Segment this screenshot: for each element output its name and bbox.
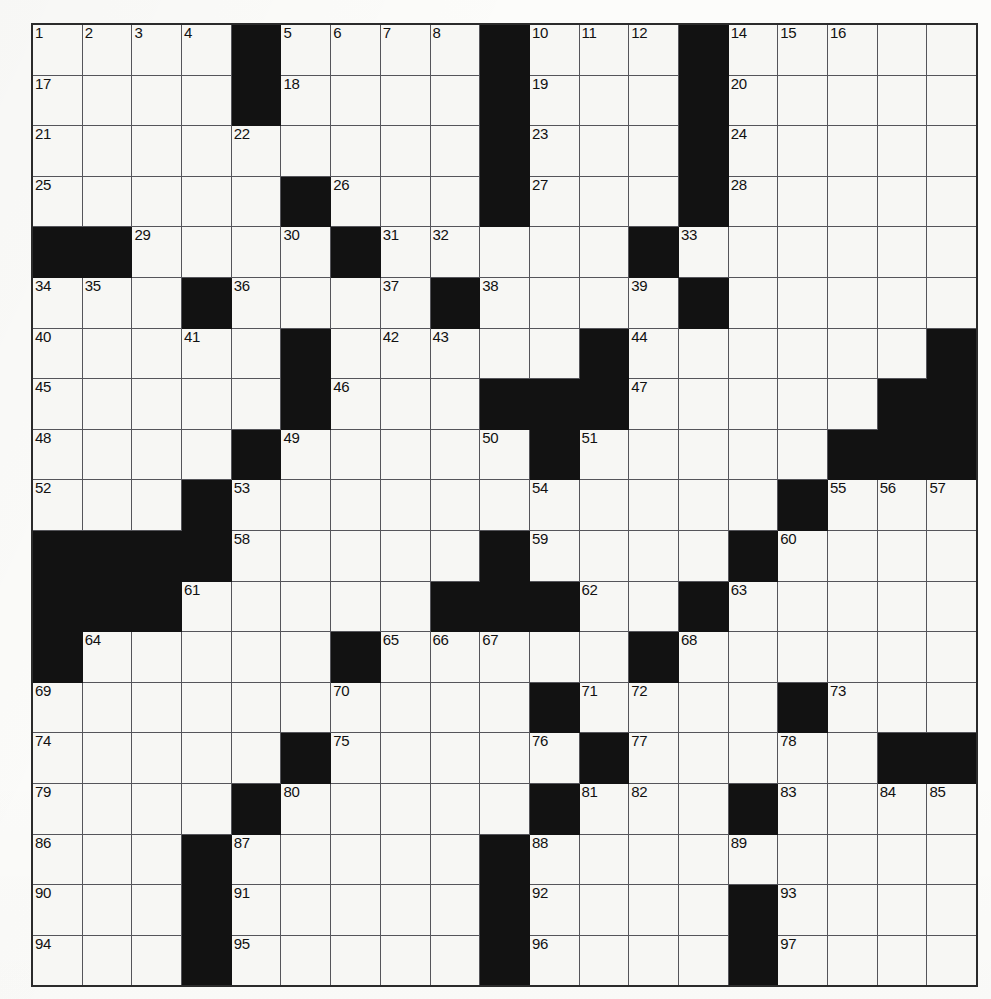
- crossword-cell[interactable]: [281, 530, 331, 581]
- crossword-cell[interactable]: [778, 227, 828, 278]
- crossword-cell[interactable]: 70: [331, 682, 381, 733]
- crossword-cell[interactable]: 20: [728, 75, 778, 126]
- crossword-cell[interactable]: [380, 783, 430, 834]
- crossword-cell[interactable]: [828, 632, 878, 683]
- crossword-cell[interactable]: [82, 733, 132, 784]
- crossword-cell[interactable]: 53: [231, 480, 281, 531]
- crossword-cell[interactable]: 48: [32, 429, 82, 480]
- crossword-cell[interactable]: [182, 75, 232, 126]
- crossword-cell[interactable]: 25: [32, 176, 82, 227]
- crossword-cell[interactable]: [927, 75, 977, 126]
- crossword-cell[interactable]: [182, 227, 232, 278]
- crossword-cell[interactable]: 62: [579, 581, 629, 632]
- crossword-cell[interactable]: [281, 126, 331, 177]
- crossword-cell[interactable]: 42: [380, 328, 430, 379]
- crossword-cell[interactable]: [927, 126, 977, 177]
- crossword-cell[interactable]: [877, 581, 927, 632]
- crossword-cell[interactable]: 85: [927, 783, 977, 834]
- crossword-cell[interactable]: [132, 379, 182, 430]
- crossword-cell[interactable]: 72: [629, 682, 679, 733]
- crossword-cell[interactable]: [331, 429, 381, 480]
- crossword-cell[interactable]: [728, 682, 778, 733]
- crossword-cell[interactable]: [132, 885, 182, 936]
- crossword-cell[interactable]: [579, 530, 629, 581]
- crossword-cell[interactable]: [828, 227, 878, 278]
- crossword-cell[interactable]: 63: [728, 581, 778, 632]
- crossword-cell[interactable]: 84: [877, 783, 927, 834]
- crossword-cell[interactable]: 59: [529, 530, 579, 581]
- crossword-cell[interactable]: 41: [182, 328, 232, 379]
- crossword-cell[interactable]: 58: [231, 530, 281, 581]
- crossword-cell[interactable]: 45: [32, 379, 82, 430]
- crossword-cell[interactable]: [231, 632, 281, 683]
- crossword-cell[interactable]: [629, 885, 679, 936]
- crossword-cell[interactable]: 66: [430, 632, 480, 683]
- crossword-cell[interactable]: 55: [828, 480, 878, 531]
- crossword-cell[interactable]: [380, 834, 430, 885]
- crossword-cell[interactable]: [529, 328, 579, 379]
- crossword-cell[interactable]: [82, 126, 132, 177]
- crossword-cell[interactable]: [480, 227, 530, 278]
- crossword-cell[interactable]: [629, 126, 679, 177]
- crossword-cell[interactable]: 79: [32, 783, 82, 834]
- crossword-cell[interactable]: [430, 176, 480, 227]
- crossword-cell[interactable]: [877, 834, 927, 885]
- crossword-cell[interactable]: [281, 885, 331, 936]
- crossword-cell[interactable]: 49: [281, 429, 331, 480]
- crossword-cell[interactable]: [480, 783, 530, 834]
- crossword-cell[interactable]: [82, 328, 132, 379]
- crossword-cell[interactable]: [728, 277, 778, 328]
- crossword-cell[interactable]: 46: [331, 379, 381, 430]
- crossword-cell[interactable]: 44: [629, 328, 679, 379]
- crossword-cell[interactable]: [82, 429, 132, 480]
- crossword-cell[interactable]: [877, 885, 927, 936]
- crossword-cell[interactable]: [778, 277, 828, 328]
- crossword-cell[interactable]: [132, 834, 182, 885]
- crossword-cell[interactable]: 29: [132, 227, 182, 278]
- crossword-cell[interactable]: [877, 530, 927, 581]
- crossword-cell[interactable]: [132, 733, 182, 784]
- crossword-cell[interactable]: 23: [529, 126, 579, 177]
- crossword-cell[interactable]: [480, 733, 530, 784]
- crossword-cell[interactable]: [828, 379, 878, 430]
- crossword-cell[interactable]: [380, 935, 430, 986]
- crossword-cell[interactable]: [877, 632, 927, 683]
- crossword-cell[interactable]: 68: [678, 632, 728, 683]
- crossword-cell[interactable]: [728, 379, 778, 430]
- crossword-cell[interactable]: [629, 75, 679, 126]
- crossword-cell[interactable]: [678, 935, 728, 986]
- crossword-cell[interactable]: [331, 834, 381, 885]
- crossword-cell[interactable]: [678, 530, 728, 581]
- crossword-grid[interactable]: 1234567810111214151617181920212223242526…: [31, 23, 978, 987]
- crossword-cell[interactable]: 12: [629, 24, 679, 75]
- crossword-cell[interactable]: 81: [579, 783, 629, 834]
- crossword-cell[interactable]: [331, 935, 381, 986]
- crossword-cell[interactable]: 32: [430, 227, 480, 278]
- crossword-cell[interactable]: 95: [231, 935, 281, 986]
- crossword-cell[interactable]: [728, 632, 778, 683]
- crossword-cell[interactable]: 28: [728, 176, 778, 227]
- crossword-cell[interactable]: [430, 480, 480, 531]
- crossword-cell[interactable]: [380, 480, 430, 531]
- crossword-cell[interactable]: [182, 429, 232, 480]
- crossword-cell[interactable]: 69: [32, 682, 82, 733]
- crossword-cell[interactable]: [877, 277, 927, 328]
- crossword-cell[interactable]: [629, 834, 679, 885]
- crossword-cell[interactable]: [182, 682, 232, 733]
- crossword-cell[interactable]: [132, 682, 182, 733]
- crossword-cell[interactable]: [430, 733, 480, 784]
- crossword-cell[interactable]: [380, 429, 430, 480]
- crossword-cell[interactable]: [82, 480, 132, 531]
- crossword-cell[interactable]: [430, 935, 480, 986]
- crossword-cell[interactable]: 19: [529, 75, 579, 126]
- crossword-cell[interactable]: [678, 682, 728, 733]
- crossword-cell[interactable]: [678, 379, 728, 430]
- crossword-cell[interactable]: 35: [82, 277, 132, 328]
- crossword-cell[interactable]: 75: [331, 733, 381, 784]
- crossword-cell[interactable]: 82: [629, 783, 679, 834]
- crossword-cell[interactable]: 2: [82, 24, 132, 75]
- crossword-cell[interactable]: 54: [529, 480, 579, 531]
- crossword-cell[interactable]: [877, 328, 927, 379]
- crossword-cell[interactable]: 83: [778, 783, 828, 834]
- crossword-cell[interactable]: 87: [231, 834, 281, 885]
